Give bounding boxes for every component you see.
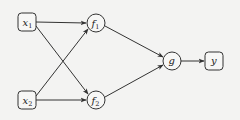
node-x2-sub: 2 — [28, 100, 32, 108]
node-f2-sub: 2 — [95, 100, 99, 108]
node-f2: f2 — [87, 91, 105, 109]
node-y: y — [205, 52, 223, 70]
edge-x2-f1 — [36, 29, 88, 96]
node-f1-sub: 1 — [95, 23, 99, 31]
node-y-label: y — [210, 55, 217, 66]
node-g: g — [163, 52, 181, 70]
edge-f2-g — [105, 65, 163, 97]
node-g-label: g — [169, 55, 175, 66]
edge-f1-g — [105, 26, 163, 57]
node-x2: x2 — [18, 91, 36, 109]
node-x1-sub: 1 — [28, 22, 32, 30]
edge-x1-f2 — [36, 26, 88, 94]
diagram-canvas: x1 x2 f1 f2 g y — [0, 0, 240, 120]
node-x1: x1 — [18, 13, 36, 31]
edge-x1-f1 — [36, 22, 86, 23]
node-f1: f1 — [87, 14, 105, 32]
